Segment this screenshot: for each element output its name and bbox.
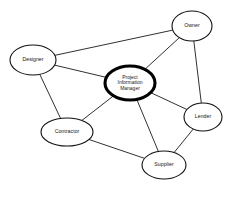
node-label-designer: Designer [22,56,43,62]
edge-supplier-to-lender [174,129,193,153]
edge-designer-to-contractor [40,74,61,118]
node-label-project-information-manager: Project [122,75,138,80]
edge-project-information-manager-to-supplier [137,99,159,151]
node-designer[interactable]: Designer [10,45,56,75]
edge-designer-to-project-information-manager [55,65,107,77]
node-label-contractor: Contractor [55,128,80,134]
node-label-owner: Owner [184,22,200,28]
edge-owner-to-project-information-manager [145,38,179,70]
node-label-lender: Lender [195,113,212,119]
nodes-layer: OwnerDesignerProjectInformationManagerLe… [10,11,222,179]
edge-contractor-to-supplier [89,139,145,158]
edge-project-information-manager-to-lender [151,93,187,110]
edge-project-information-manager-to-contractor [82,96,114,121]
node-project-information-manager[interactable]: ProjectInformationManager [105,66,155,100]
node-label-supplier: Supplier [154,161,174,167]
node-label-project-information-manager: Information [117,80,142,85]
network-diagram: OwnerDesignerProjectInformationManagerLe… [0,0,231,197]
node-lender[interactable]: Lender [184,103,222,131]
node-supplier[interactable]: Supplier [142,151,186,179]
node-contractor[interactable]: Contractor [41,118,93,146]
network-diagram-canvas: OwnerDesignerProjectInformationManagerLe… [0,0,231,197]
node-owner[interactable]: Owner [172,11,212,41]
edge-designer-to-owner [55,30,173,55]
node-label-project-information-manager: Manager [120,86,140,91]
edge-owner-to-lender [194,41,202,103]
